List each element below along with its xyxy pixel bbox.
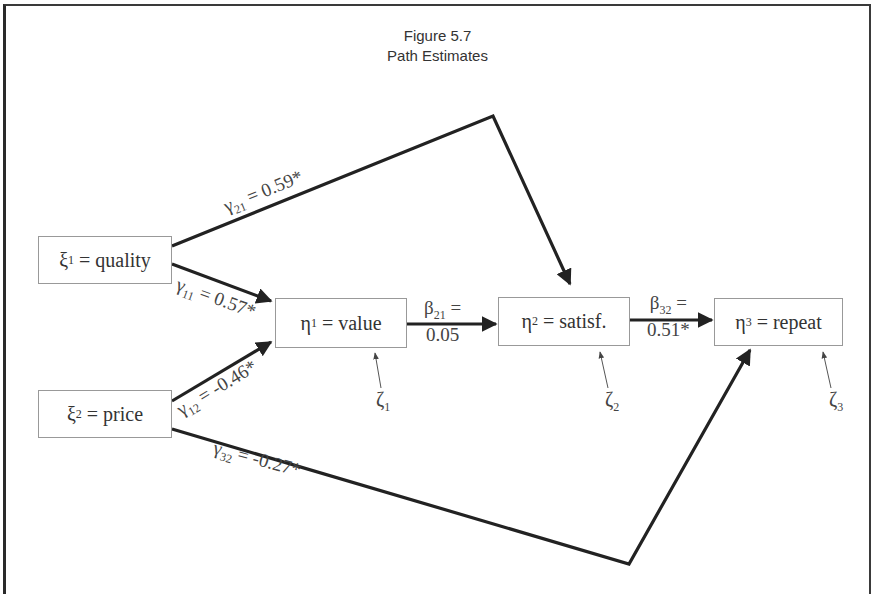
- path-subscript: 21: [232, 199, 248, 216]
- node-symbol: ξ: [59, 249, 68, 272]
- node-label: = repeat: [757, 311, 822, 334]
- path-subscript: 11: [180, 287, 196, 304]
- error-subscript: 3: [837, 400, 843, 414]
- node-satisf: η2 = satisf.: [498, 297, 630, 346]
- node-symbol: η: [735, 311, 745, 334]
- path-equals: =: [676, 292, 687, 313]
- node-label: = quality: [79, 249, 151, 272]
- node-quality: ξ1 = quality: [38, 236, 172, 284]
- error-arrow-zeta1: [375, 353, 381, 388]
- path-estimate: 0.05: [424, 325, 461, 345]
- path-subscript: 32: [218, 449, 233, 466]
- node-subscript: 2: [76, 407, 82, 422]
- node-label: = satisf.: [543, 310, 607, 333]
- path-subscript: 32: [659, 303, 671, 317]
- path-subscript: 21: [434, 308, 446, 322]
- node-subscript: 3: [746, 315, 752, 330]
- path-estimate: 0.51*: [647, 320, 690, 340]
- label-beta21: β21 = 0.05: [424, 298, 461, 345]
- path-equals: =: [450, 297, 461, 318]
- node-symbol: η: [300, 312, 310, 335]
- node-label: = price: [87, 403, 143, 426]
- error-zeta2: ζ2: [605, 388, 619, 415]
- error-subscript: 2: [613, 400, 619, 414]
- node-subscript: 1: [68, 253, 74, 268]
- error-zeta1: ζ1: [376, 388, 390, 415]
- error-subscript: 1: [384, 400, 390, 414]
- node-symbol: ξ: [67, 403, 76, 426]
- node-value: η1 = value: [275, 298, 407, 348]
- node-label: = value: [322, 312, 382, 335]
- node-price: ξ2 = price: [38, 390, 172, 438]
- label-beta32: β32 = 0.51*: [647, 293, 690, 340]
- node-subscript: 2: [532, 314, 538, 329]
- node-repeat: η3 = repeat: [714, 298, 843, 346]
- node-subscript: 1: [311, 316, 317, 331]
- error-zeta3: ζ3: [829, 388, 843, 415]
- path-symbol: β: [424, 297, 434, 318]
- error-arrow-zeta2: [600, 352, 608, 388]
- node-symbol: η: [522, 310, 532, 333]
- error-arrow-zeta3: [823, 352, 831, 388]
